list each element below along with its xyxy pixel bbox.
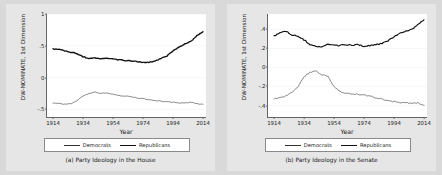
x-tick-mark	[203, 117, 204, 119]
x-tick-mark	[143, 117, 144, 119]
plot-area-house: 1.50-.5191419341954197419942014	[46, 14, 206, 118]
y-tick-label: 0	[41, 75, 44, 81]
y-tick-label: .2	[260, 45, 265, 51]
legend-label-democrats: Democrats	[304, 142, 332, 148]
panel-house-inner: DW-NOMINATE, 1st Dimension 1.50-.5191419…	[6, 4, 215, 171]
legend-house: Democrats Republicans	[44, 138, 190, 152]
line-swatch-icon	[120, 145, 136, 146]
line-swatch-icon	[341, 145, 357, 146]
y-tick-mark	[266, 29, 268, 30]
x-tick-mark	[394, 117, 395, 119]
x-tick-mark	[53, 117, 54, 119]
x-tick-mark	[274, 117, 275, 119]
y-tick-label: -.4	[258, 103, 265, 109]
legend-entry-republicans: Republicans	[341, 142, 391, 148]
x-tick-mark	[334, 117, 335, 119]
y-tick-label: 1	[41, 11, 44, 17]
y-tick-label: -.2	[258, 83, 265, 89]
x-tick-label: 1914	[267, 120, 281, 126]
y-tick-label: 0	[262, 64, 265, 70]
chart-svg-senate	[268, 14, 427, 117]
x-tick-mark	[424, 117, 425, 119]
y-tick-mark	[45, 109, 47, 110]
panel-senate: DW-NOMINATE, 1st Dimension .4.20-.2-.419…	[221, 0, 442, 175]
x-tick-label: 1974	[357, 120, 371, 126]
series-line-democrats	[274, 71, 424, 106]
figure-container: DW-NOMINATE, 1st Dimension 1.50-.5191419…	[0, 0, 442, 175]
x-axis-title: Year	[267, 128, 427, 135]
panel-senate-inner: DW-NOMINATE, 1st Dimension .4.20-.2-.419…	[227, 4, 436, 171]
legend-entry-republicans: Republicans	[120, 142, 170, 148]
x-tick-mark	[364, 117, 365, 119]
x-tick-label: 2014	[196, 120, 210, 126]
x-tick-label: 1914	[46, 120, 60, 126]
y-tick-mark	[45, 45, 47, 46]
x-tick-label: 1934	[297, 120, 311, 126]
x-axis-title: Year	[46, 128, 206, 135]
x-tick-mark	[113, 117, 114, 119]
y-axis-title: DW-NOMINATE, 1st Dimension	[20, 2, 26, 112]
series-line-republicans	[53, 32, 203, 63]
y-tick-mark	[266, 105, 268, 106]
y-tick-mark	[266, 67, 268, 68]
x-tick-label: 1954	[106, 120, 120, 126]
y-tick-label: .5	[39, 43, 44, 49]
x-tick-label: 1974	[136, 120, 150, 126]
line-swatch-icon	[285, 145, 301, 146]
y-tick-mark	[266, 48, 268, 49]
y-tick-label: -.5	[37, 106, 44, 112]
x-tick-label: 2014	[417, 120, 431, 126]
legend-label-democrats: Democrats	[83, 142, 111, 148]
series-line-republicans	[274, 20, 424, 47]
legend-label-republicans: Republicans	[360, 142, 391, 148]
legend-label-republicans: Republicans	[139, 142, 170, 148]
x-tick-mark	[173, 117, 174, 119]
panel-caption-senate: (b) Party Ideology in the Senate	[227, 157, 436, 163]
chart-svg-house	[47, 14, 206, 117]
x-tick-label: 1934	[76, 120, 90, 126]
x-tick-mark	[304, 117, 305, 119]
plot-area-senate: .4.20-.2-.4191419341954197419942014	[267, 14, 427, 118]
y-tick-label: .4	[260, 26, 265, 32]
legend-entry-democrats: Democrats	[64, 142, 111, 148]
x-tick-mark	[83, 117, 84, 119]
x-tick-label: 1954	[327, 120, 341, 126]
y-tick-mark	[45, 77, 47, 78]
x-tick-label: 1994	[166, 120, 180, 126]
y-tick-mark	[45, 14, 47, 15]
y-tick-mark	[266, 86, 268, 87]
legend-senate: Democrats Republicans	[265, 138, 411, 152]
x-tick-label: 1994	[387, 120, 401, 126]
series-line-democrats	[53, 92, 203, 104]
y-axis-title: DW-NOMINATE, 1st Dimension	[241, 2, 247, 112]
legend-entry-democrats: Democrats	[285, 142, 332, 148]
line-swatch-icon	[64, 145, 80, 146]
panel-caption-house: (a) Party Ideology in the House	[6, 157, 215, 163]
panel-house: DW-NOMINATE, 1st Dimension 1.50-.5191419…	[0, 0, 221, 175]
